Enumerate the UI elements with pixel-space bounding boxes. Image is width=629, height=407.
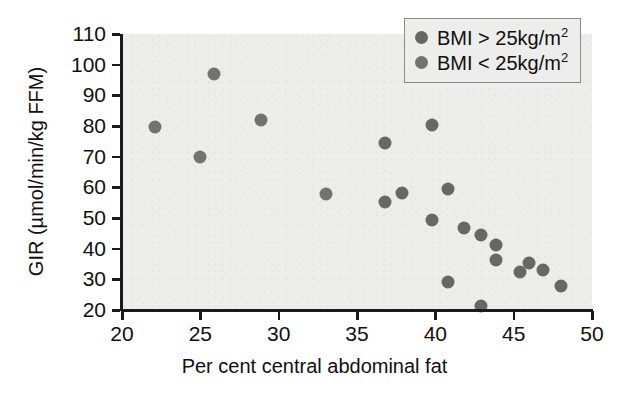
data-point (474, 229, 487, 242)
x-axis-tick (278, 311, 281, 320)
y-axis-tick (112, 309, 120, 312)
y-axis-line (120, 34, 123, 311)
y-axis-tick-label: 50 (0, 206, 106, 230)
data-point (396, 186, 409, 199)
y-axis-tick-label: 30 (0, 267, 106, 291)
y-axis-tick-label: 70 (0, 145, 106, 169)
y-axis-tick-label: 90 (0, 83, 106, 107)
legend-marker-icon (415, 56, 428, 69)
data-point (255, 113, 268, 126)
x-axis-tick-label: 50 (580, 322, 603, 346)
data-point (426, 214, 439, 227)
data-point (148, 120, 161, 133)
y-axis-tick-label: 60 (0, 175, 106, 199)
x-axis-tick (199, 311, 202, 320)
data-point (379, 196, 392, 209)
y-axis-tick (112, 64, 120, 67)
y-axis-tick (112, 94, 120, 97)
y-axis-tick (112, 217, 120, 220)
legend-item-bmi-under-25[interactable]: BMI < 25kg/m2 (415, 50, 568, 75)
x-axis-tick (356, 311, 359, 320)
data-point (319, 188, 332, 201)
data-point (554, 280, 567, 293)
data-point (513, 266, 526, 279)
x-axis-tick (434, 311, 437, 320)
x-axis-tick-label: 40 (424, 322, 447, 346)
data-point (490, 238, 503, 251)
data-point (457, 222, 470, 235)
x-axis-tick-label: 35 (345, 322, 368, 346)
data-point (537, 264, 550, 277)
legend-marker-icon (415, 31, 428, 44)
legend-item-bmi-over-25[interactable]: BMI > 25kg/m2 (415, 25, 568, 50)
x-axis-tick (513, 311, 516, 320)
y-axis-tick (112, 156, 120, 159)
y-axis-title: GIR (µmol/min/kg FFM) (25, 32, 48, 312)
data-point (441, 183, 454, 196)
x-axis-tick-label: 25 (189, 322, 212, 346)
data-point (426, 119, 439, 132)
y-axis-tick (112, 33, 120, 36)
data-point (208, 67, 221, 80)
y-axis-tick-label: 100 (0, 53, 106, 77)
x-axis-title: Per cent central abdominal fat (0, 355, 629, 378)
y-axis-tick (112, 125, 120, 128)
y-axis-tick-label: 20 (0, 298, 106, 322)
scatter-plot-figure: 2030405060708090100110 20253035404550 Pe… (0, 0, 629, 407)
y-axis-tick-label: 110 (0, 22, 106, 46)
data-point (441, 276, 454, 289)
x-axis-tick (121, 311, 124, 320)
x-axis-tick-label: 45 (502, 322, 525, 346)
y-axis-tick-label: 80 (0, 114, 106, 138)
x-axis-tick-label: 20 (110, 322, 133, 346)
legend: BMI > 25kg/m2 BMI < 25kg/m2 (404, 18, 581, 83)
x-axis-tick-label: 30 (267, 322, 290, 346)
y-axis-tick-label: 40 (0, 237, 106, 261)
data-point (194, 151, 207, 164)
data-point (490, 254, 503, 267)
x-axis-tick (591, 311, 594, 320)
y-axis-tick (112, 186, 120, 189)
legend-item-label: BMI < 25kg/m2 (437, 50, 568, 75)
y-axis-tick (112, 278, 120, 281)
y-axis-tick (112, 248, 120, 251)
data-point (379, 137, 392, 150)
legend-item-label: BMI > 25kg/m2 (437, 25, 568, 50)
